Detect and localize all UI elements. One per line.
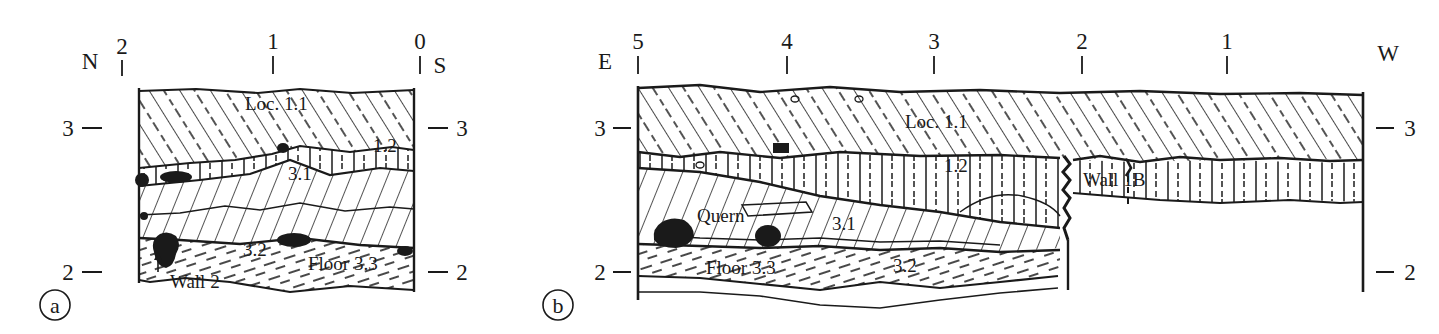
panel-b-letter: b <box>553 293 564 318</box>
panel-a-stone-6 <box>277 233 311 247</box>
panel-b-tick-label-4: 4 <box>781 29 793 54</box>
panel-b-tick-label-2: 2 <box>1076 29 1088 54</box>
panel-a-label-1-2: 1.2 <box>373 135 397 156</box>
panel-a-stone-2 <box>160 171 192 183</box>
panel-a-tick-label-0: 0 <box>414 29 426 54</box>
panel-b-label-wall-1b: Wall 1B <box>1083 169 1145 190</box>
figure-svg: N S 2 1 0 3 2 3 2 <box>0 0 1439 334</box>
panel-b-stone-3 <box>773 143 789 153</box>
panel-a-stone-3 <box>277 143 289 153</box>
panel-a-elev-left-3: 3 <box>62 116 74 141</box>
panel-a-label-3-2: 3.2 <box>243 239 267 260</box>
panel-b-label-3-2: 3.2 <box>893 255 917 276</box>
panel-a-tick-label-2: 2 <box>116 34 128 59</box>
panel-a-elev-left-2: 2 <box>62 260 74 285</box>
panel-a-elev-right-2: 2 <box>456 260 468 285</box>
panel-b-elev-left-2: 2 <box>594 260 606 285</box>
panel-b-label-quern: Quern <box>697 205 745 226</box>
panel-a-stone-1 <box>135 173 149 187</box>
panel-a-label-3-1: 3.1 <box>288 163 312 184</box>
panel-a-stone-4 <box>140 212 148 220</box>
panel-b-tick-label-5: 5 <box>632 29 644 54</box>
panel-a-letter: a <box>50 293 60 318</box>
panel-b-elev-right-2: 2 <box>1404 260 1416 285</box>
panel-a-label-wall-2: Wall 2 <box>170 271 220 292</box>
panel-b-label-3-1: 3.1 <box>832 213 856 234</box>
panel-a-label-floor-3-3: Floor 3.3 <box>308 253 378 274</box>
panel-a-tick-label-1: 1 <box>267 29 279 54</box>
section-drawing-figure: N S 2 1 0 3 2 3 2 <box>0 0 1439 334</box>
panel-b-label-floor-3-3: Floor 3.3 <box>706 257 776 278</box>
panel-a-label-loc-1-1: Loc. 1.1 <box>245 93 308 114</box>
panel-a-elev-right-3: 3 <box>456 116 468 141</box>
panel-a-stone-7 <box>397 246 413 256</box>
panel-b-label-1-2: 1.2 <box>944 155 968 176</box>
panel-b-label-loc-1-1: Loc. 1.1 <box>905 111 968 132</box>
panel-b-tick-label-3: 3 <box>928 29 940 54</box>
panel-a-compass-left: N <box>82 49 99 74</box>
panel-b-elev-left-3: 3 <box>594 116 606 141</box>
panel-b-tick-label-1: 1 <box>1221 29 1233 54</box>
panel-b-stone-2 <box>755 225 781 247</box>
panel-b-compass-left: E <box>598 49 612 74</box>
panel-a-compass-right: S <box>434 53 447 78</box>
panel-b-compass-right: W <box>1377 41 1399 66</box>
panel-b-elev-right-3: 3 <box>1404 116 1416 141</box>
